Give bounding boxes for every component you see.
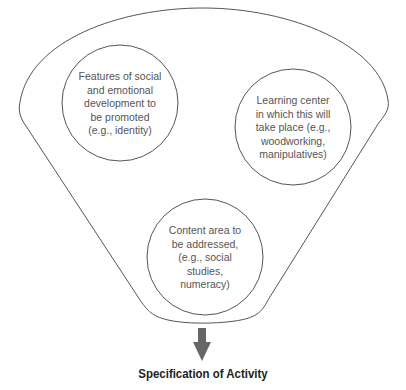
circle-label-content-area: Content area to be addressed, (e.g., soc… bbox=[153, 222, 257, 294]
down-arrow-icon bbox=[193, 328, 211, 361]
circle-label-learning-center: Learning center in which this will take … bbox=[241, 92, 345, 164]
circle-label-social-emotional: Features of social and emotional develop… bbox=[68, 68, 172, 140]
funnel-diagram bbox=[0, 0, 406, 390]
output-label: Specification of Activity bbox=[24, 366, 381, 381]
